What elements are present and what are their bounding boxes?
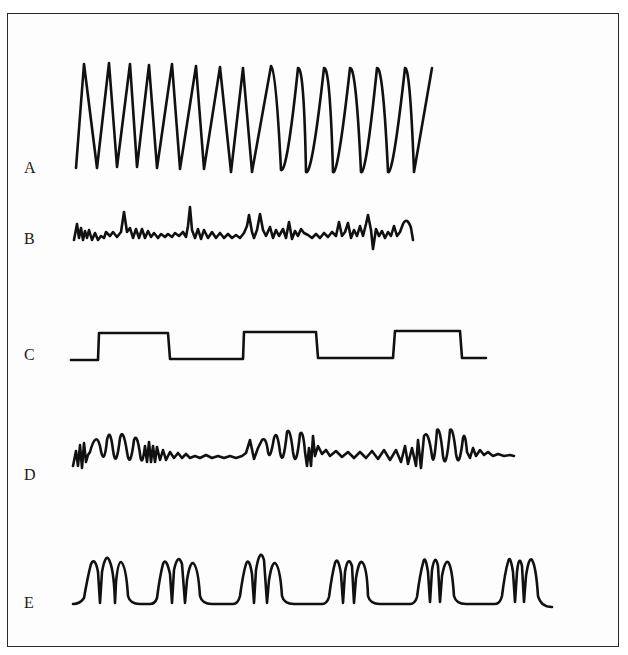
waveform-b: [74, 207, 413, 249]
waveform-e: [73, 555, 552, 607]
waveform-a: [76, 63, 432, 172]
waveforms-canvas: [0, 0, 628, 655]
waveform-d: [73, 430, 514, 469]
waveform-c: [71, 331, 486, 360]
